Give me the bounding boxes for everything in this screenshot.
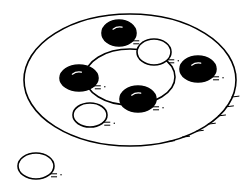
black-element-black-left	[60, 65, 106, 91]
black-element-black-right	[180, 56, 224, 82]
shadow-dot	[114, 123, 115, 124]
shadow-dot	[178, 60, 179, 61]
hatch-mark	[167, 141, 175, 142]
white-element-white-outside	[18, 153, 62, 179]
shadow-dot	[162, 107, 163, 108]
set-diagram	[0, 0, 252, 192]
shadow-dot	[104, 86, 105, 87]
white-element-white-top-right	[137, 39, 179, 65]
white-element-white-lower-left	[73, 103, 115, 127]
black-element-black-top	[102, 20, 144, 46]
hatch-mark	[182, 136, 190, 137]
shadow-dot	[60, 174, 61, 175]
shadow-dot	[222, 77, 223, 78]
element-group	[18, 20, 224, 179]
